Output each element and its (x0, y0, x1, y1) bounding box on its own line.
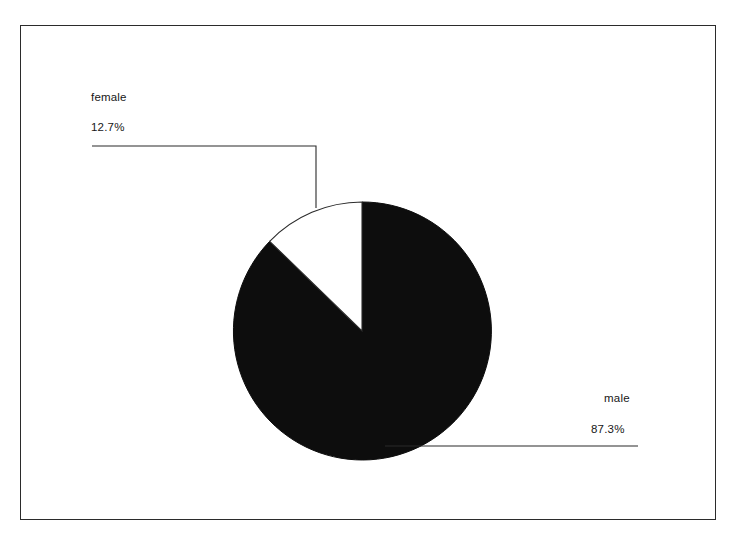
slice-label-male: male (604, 392, 630, 405)
slice-label-female: female (91, 91, 127, 104)
slice-percent-female: 12.7% (91, 121, 125, 134)
slice-percent-male: 87.3% (591, 423, 625, 436)
leader-line-female (92, 146, 316, 208)
figure-canvas: female 12.7% male 87.3% (0, 0, 736, 543)
pie-chart (0, 0, 736, 543)
